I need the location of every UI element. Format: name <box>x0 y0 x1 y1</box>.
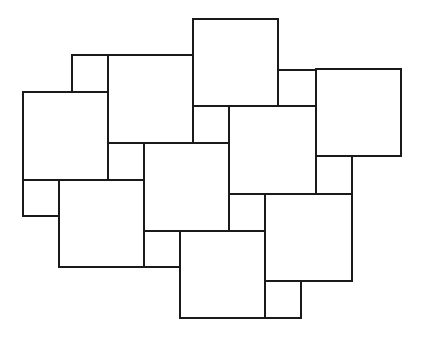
small-square-f <box>144 231 180 267</box>
large-square-E <box>229 106 316 194</box>
large-square-C <box>193 19 278 106</box>
large-square-B <box>108 55 193 143</box>
large-square-A <box>23 92 108 180</box>
small-square-e <box>23 180 59 216</box>
small-square-c <box>193 106 229 143</box>
small-square-h <box>316 156 352 194</box>
large-square-H <box>180 231 265 318</box>
small-square-b <box>278 70 316 106</box>
large-square-G <box>59 180 144 267</box>
large-square-F <box>144 143 229 231</box>
small-square-i <box>265 281 301 318</box>
small-square-a <box>72 55 108 92</box>
large-square-I <box>265 194 352 281</box>
small-square-d <box>108 143 144 180</box>
large-square-D <box>316 69 401 156</box>
small-square-g <box>229 194 265 231</box>
pythagorean-tiling-diagram <box>0 0 425 337</box>
